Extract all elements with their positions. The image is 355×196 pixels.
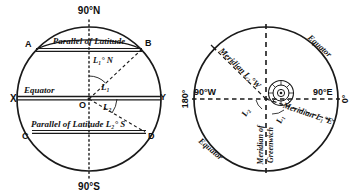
label-parallel-of-latitude-north: Parallel of Latitude [53,36,126,46]
label-90-west: 90°W [194,87,217,97]
label-equator-left: Equator [23,85,55,95]
label-point-y: Y [160,92,166,102]
label-equator-lower-left: Equator [196,135,226,162]
label-meridian-l2-west: Meridian L₂°W [217,45,264,91]
label-angle-l2: L₂ [102,102,112,112]
label-south-pole: 90°S [78,181,100,192]
label-meridian-of-greenwich-line2: Greenwich [266,126,275,163]
label-equator-upper-right: Equator [305,32,334,60]
angle-arc-l1-right [272,110,284,114]
label-180-degrees: 180° [180,89,190,108]
left-diagram-group: 90°N 90°S X Y O A B C D Parallel of Lati… [10,5,166,192]
label-point-o: O [79,100,86,110]
diagram-svg: 90°N 90°S X Y O A B C D Parallel of Lati… [0,0,355,196]
label-point-d: D [148,131,155,141]
hub-center-dot [280,92,283,95]
label-point-x: X [10,93,17,104]
label-parallel-of-latitude-south: Parallel of Latitude L₂° S [31,119,125,129]
label-latitude-l1-north: L₁° N [92,55,114,65]
label-point-a: A [25,39,32,49]
label-north-pole: 90°N [78,5,100,16]
label-angle-l1-right: L₁ [273,113,286,125]
angle-arc-l2 [112,99,117,113]
center-point-o-dot [88,98,91,101]
label-90-east: 90°E [313,87,333,97]
label-meridian-l1-east: Meridian L₁°E [281,100,335,127]
label-meridian-of-greenwich-line1: Meridian of [256,124,265,166]
label-angle-l1: L₁ [100,82,110,92]
angle-arc-l2-right [256,100,262,109]
label-0-degrees: 0° [340,94,350,103]
label-point-c: C [22,131,29,141]
label-point-b: B [145,38,152,48]
right-diagram-group: 180° 0° 90°W 90°E Meridian L₂°W Meridian… [180,24,350,176]
figure-canvas: 90°N 90°S X Y O A B C D Parallel of Lati… [0,0,355,196]
label-angle-l2-right: L₂ [238,106,251,119]
